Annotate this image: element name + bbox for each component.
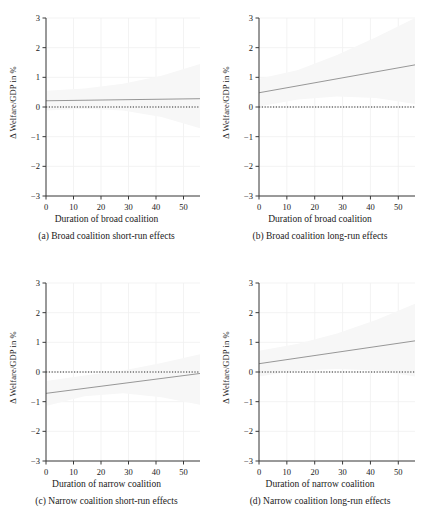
y-tick-label: 1: [36, 338, 40, 347]
y-tick-label: −1: [31, 397, 40, 406]
y-tick-label: 1: [249, 338, 253, 347]
y-tick-label: −2: [31, 427, 40, 436]
y-tick-label: −2: [31, 162, 40, 171]
x-tick-label: 20: [310, 468, 319, 477]
y-tick-label: −3: [31, 457, 40, 466]
y-tick-label: 1: [249, 73, 253, 82]
y-tick-label: 3: [249, 14, 253, 23]
x-tick-label: 50: [394, 203, 403, 212]
x-tick-label: 30: [124, 468, 133, 477]
x-axis-title-d: Duration of narrow coalition: [213, 479, 427, 489]
y-tick-label: −3: [244, 192, 253, 201]
y-tick-label: −2: [244, 427, 253, 436]
y-tick-label: 2: [249, 43, 253, 52]
y-tick-label: 2: [36, 308, 40, 317]
x-tick-label: 0: [257, 203, 261, 212]
plot-canvas-b: [259, 18, 415, 196]
x-tick-label: 40: [366, 203, 375, 212]
y-tick-label: −1: [31, 132, 40, 141]
y-tick-label: 3: [36, 14, 40, 23]
y-tick-label: 0: [36, 368, 40, 377]
y-tick-label: 3: [36, 279, 40, 288]
plot-canvas-a: [46, 18, 200, 196]
x-tick-label: 20: [97, 203, 106, 212]
plot-area-d: 3210−1−2−301020304050: [259, 283, 415, 461]
x-tick-label: 50: [179, 203, 188, 212]
y-tick-label: −1: [244, 397, 253, 406]
y-tick-label: 3: [249, 279, 253, 288]
x-tick-label: 30: [338, 468, 347, 477]
subcaption-b: (b) Broad coalition long-run effects: [213, 231, 427, 241]
x-tick-label: 10: [283, 468, 292, 477]
plot-area-a: 3210−1−2−301020304050: [46, 18, 200, 196]
x-tick-label: 40: [152, 468, 161, 477]
x-tick-label: 20: [310, 203, 319, 212]
x-tick-label: 20: [97, 468, 106, 477]
x-tick-label: 50: [179, 468, 188, 477]
subcaption-c: (c) Narrow coalition short-run effects: [0, 496, 213, 506]
x-tick-label: 0: [257, 468, 261, 477]
y-tick-label: 2: [36, 43, 40, 52]
y-tick-label: −3: [31, 192, 40, 201]
x-tick-label: 40: [366, 468, 375, 477]
y-axis-title-b: Δ Welfare/GDP in %: [219, 0, 233, 205]
y-tick-label: 0: [249, 103, 253, 112]
x-axis-title-c: Duration of narrow coalition: [0, 479, 213, 489]
y-tick-label: 0: [36, 103, 40, 112]
figure-four-panel-marginal-effects: Δ Welfare/GDP in % 3210−1−2−301020304050…: [0, 0, 427, 530]
x-tick-label: 0: [44, 468, 48, 477]
y-axis-title-d: Δ Welfare/GDP in %: [219, 265, 233, 470]
x-tick-label: 10: [69, 203, 78, 212]
panel-a: Δ Welfare/GDP in % 3210−1−2−301020304050…: [0, 0, 213, 265]
y-tick-label: 0: [249, 368, 253, 377]
x-tick-label: 10: [69, 468, 78, 477]
x-tick-label: 40: [152, 203, 161, 212]
y-tick-label: 1: [36, 73, 40, 82]
x-tick-label: 0: [44, 203, 48, 212]
plot-canvas-d: [259, 283, 415, 461]
plot-area-b: 3210−1−2−301020304050: [259, 18, 415, 196]
y-axis-title-a: Δ Welfare/GDP in %: [6, 0, 20, 205]
plot-area-c: 3210−1−2−301020304050: [46, 283, 200, 461]
x-tick-label: 30: [338, 203, 347, 212]
subcaption-d: (d) Narrow coalition long-run effects: [213, 496, 427, 506]
x-axis-title-b: Duration of broad coalition: [213, 214, 427, 224]
x-tick-label: 30: [124, 203, 133, 212]
x-tick-label: 50: [394, 468, 403, 477]
x-axis-title-a: Duration of broad coalition: [0, 214, 213, 224]
x-tick-label: 10: [283, 203, 292, 212]
panel-b: Δ Welfare/GDP in % 3210−1−2−301020304050…: [213, 0, 427, 265]
panel-c: Δ Welfare/GDP in % 3210−1−2−301020304050…: [0, 265, 213, 530]
subcaption-a: (a) Broad coalition short-run effects: [0, 231, 213, 241]
y-tick-label: −3: [244, 457, 253, 466]
y-axis-title-c: Δ Welfare/GDP in %: [6, 265, 20, 470]
plot-canvas-c: [46, 283, 200, 461]
panel-d: Δ Welfare/GDP in % 3210−1−2−301020304050…: [213, 265, 427, 530]
y-tick-label: −1: [244, 132, 253, 141]
y-tick-label: 2: [249, 308, 253, 317]
y-tick-label: −2: [244, 162, 253, 171]
